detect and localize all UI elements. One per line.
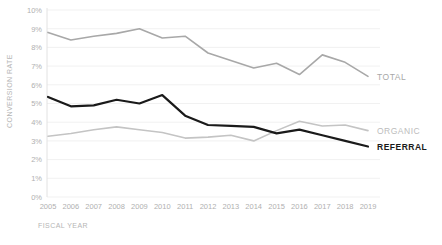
x-tick-label: 2006 [63,202,80,211]
x-tick-label: 2018 [337,202,354,211]
x-tick-label: 2017 [314,202,331,211]
series-label-referral: REFERRAL [377,142,427,152]
x-tick-label: 2005 [40,202,57,211]
series-line-total [48,29,368,77]
x-tick-label: 2012 [200,202,217,211]
y-tick-label: 1% [31,174,42,183]
series-lines-group [48,29,368,147]
series-label-total: TOTAL [377,72,406,82]
line-chart: 0%1%2%3%4%5%6%7%8%9%10% 2005200620072008… [0,0,442,245]
x-tick-label: 2011 [177,202,193,211]
y-tick-label: 4% [31,118,42,127]
x-tick-label: 2016 [291,202,308,211]
series-label-organic: ORGANIC [377,126,420,136]
series-line-referral [48,95,368,146]
x-tick-label: 2009 [131,202,148,211]
chart-page: 0%1%2%3%4%5%6%7%8%9%10% 2005200620072008… [0,0,442,245]
y-tick-label: 2% [31,155,42,164]
x-tick-label: 2015 [268,202,285,211]
y-tick-label: 9% [31,25,42,34]
x-axis-title: FISCAL YEAR [38,222,88,229]
y-tick-label: 6% [31,81,42,90]
x-tick-label: 2008 [108,202,125,211]
series-end-labels-group: TOTALORGANICREFERRAL [377,72,427,152]
y-tick-label: 8% [31,43,42,52]
y-tick-label: 10% [27,6,42,15]
y-tick-label: 5% [31,99,42,108]
x-tick-label: 2014 [245,202,262,211]
y-tick-label: 7% [31,62,42,71]
x-tick-label: 2010 [154,202,171,211]
y-tick-label: 0% [31,193,42,202]
y-axis-title: CONVERSION RATE [6,54,13,128]
x-tick-label: 2019 [360,202,377,211]
x-tick-label: 2007 [85,202,102,211]
y-tick-label: 3% [31,137,42,146]
x-tick-label: 2013 [223,202,240,211]
x-axis-tick-labels: 2005200620072008200920102011201220132014… [40,202,377,211]
y-axis-tick-labels: 0%1%2%3%4%5%6%7%8%9%10% [27,6,42,202]
